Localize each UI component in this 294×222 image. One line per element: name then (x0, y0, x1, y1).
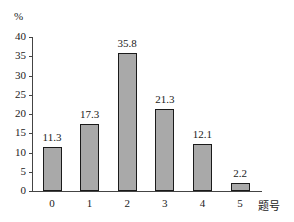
y-tick-label: 0 (6, 184, 26, 196)
x-tick-label: 2 (117, 197, 137, 209)
y-tick-mark (29, 114, 32, 115)
y-tick-label: 15 (6, 126, 26, 138)
y-tick-mark (29, 95, 32, 96)
y-tick-label: 35 (6, 49, 26, 61)
y-tick-mark (29, 56, 32, 57)
bar-value-label: 17.3 (70, 108, 110, 120)
x-axis-title: 题号 (258, 197, 280, 213)
bar-value-label: 21.3 (145, 93, 185, 105)
y-tick-mark (29, 37, 32, 38)
y-tick-label: 20 (6, 107, 26, 119)
y-tick-mark (29, 191, 32, 192)
bar-5 (231, 183, 250, 191)
x-tick-label: 0 (42, 197, 62, 209)
y-tick-label: 10 (6, 146, 26, 158)
x-tick-label: 4 (192, 197, 212, 209)
bar-2 (118, 53, 137, 191)
y-axis-line (32, 37, 33, 191)
x-tick-label: 5 (230, 197, 250, 209)
y-tick-mark (29, 172, 32, 173)
y-tick-label: 30 (6, 69, 26, 81)
y-tick-mark (29, 153, 32, 154)
y-tick-mark (29, 76, 32, 77)
y-tick-label: 40 (6, 30, 26, 42)
bar-value-label: 2.2 (220, 167, 260, 179)
bar-value-label: 35.8 (107, 37, 147, 49)
y-axis-unit-label: % (14, 10, 23, 22)
bar-1 (80, 124, 99, 191)
x-tick-label: 1 (80, 197, 100, 209)
y-tick-label: 5 (6, 165, 26, 177)
bar-value-label: 11.3 (32, 131, 72, 143)
bar-0 (43, 147, 62, 191)
bar-3 (155, 109, 174, 191)
bar-value-label: 12.1 (182, 128, 222, 140)
y-tick-label: 25 (6, 88, 26, 100)
x-axis-line (32, 191, 262, 192)
x-tick-label: 3 (155, 197, 175, 209)
bar-4 (193, 144, 212, 191)
